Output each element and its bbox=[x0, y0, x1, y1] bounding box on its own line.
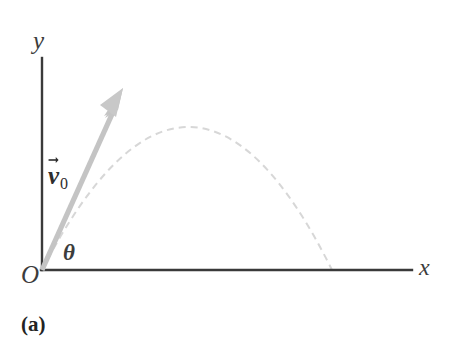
diagram-canvas bbox=[0, 0, 455, 346]
x-axis-label: x bbox=[419, 255, 430, 279]
projectile-trajectory-path bbox=[42, 127, 332, 270]
theta-angle-label: θ bbox=[63, 241, 75, 264]
initial-velocity-label: v 0 bbox=[48, 163, 68, 192]
origin-label: O bbox=[21, 262, 39, 287]
velocity-vector-accent-group: v bbox=[48, 163, 59, 188]
velocity-subscript: 0 bbox=[60, 175, 68, 192]
velocity-symbol: v bbox=[48, 162, 59, 189]
panel-caption: (a) bbox=[21, 314, 46, 335]
projectile-figure: y x O θ v 0 (a) bbox=[0, 0, 455, 346]
y-axis-label: y bbox=[33, 28, 44, 53]
